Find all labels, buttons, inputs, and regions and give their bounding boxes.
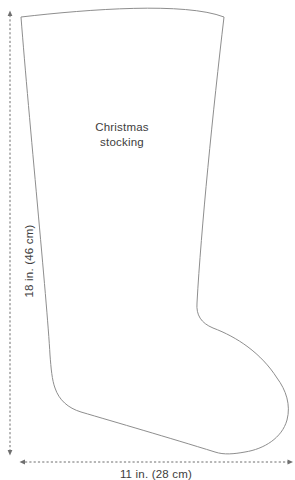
height-dimension: 18 in. (46 cm) (8, 11, 35, 456)
width-dimension-arrow-right-icon (288, 460, 294, 465)
stocking-pattern-diagram: 18 in. (46 cm) 11 in. (28 cm) Christmas … (0, 0, 295, 480)
pattern-canvas: 18 in. (46 cm) 11 in. (28 cm) Christmas … (0, 0, 295, 480)
height-dimension-arrow-down-icon (8, 450, 13, 456)
width-dimension-arrow-left-icon (20, 460, 26, 465)
width-dimension: 11 in. (28 cm) (20, 460, 294, 480)
height-dimension-label: 18 in. (46 cm) (23, 224, 35, 297)
stocking-label-line2: stocking (100, 136, 144, 148)
stocking-label: Christmas stocking (95, 121, 149, 148)
width-dimension-label: 11 in. (28 cm) (120, 468, 192, 480)
height-dimension-arrow-up-icon (8, 11, 13, 17)
stocking-label-line1: Christmas (95, 121, 149, 133)
stocking-outline (21, 8, 288, 454)
